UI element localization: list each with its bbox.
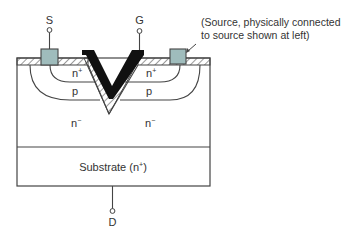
p-right-label: p (146, 85, 152, 97)
gate-label: G (135, 14, 144, 26)
drain-terminal-icon (110, 209, 115, 214)
substrate-label: Substrate (n+) (79, 161, 147, 173)
annotation-line-2: to source shown at left) (201, 29, 310, 41)
p-left-label: p (72, 85, 78, 97)
source-contact-right (170, 49, 186, 64)
annotation-line-1: (Source, physically connected (201, 16, 341, 28)
source-terminal-icon (47, 28, 52, 33)
source-contact-left (41, 49, 58, 65)
drain-label: D (109, 216, 117, 228)
vmos-diagram: S G D n+ n+ p p n− n− Substrate (n+) (So… (0, 0, 353, 238)
source-label: S (46, 14, 53, 26)
annotation-arrow (188, 44, 196, 51)
gate-terminal-icon (137, 29, 142, 34)
arrowhead-icon (186, 48, 190, 53)
